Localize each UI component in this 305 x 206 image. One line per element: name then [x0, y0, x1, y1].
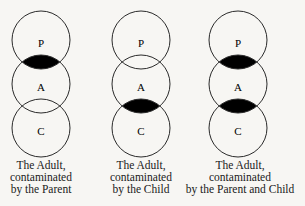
group-adult-contaminated-by-parent: P A C [12, 11, 70, 157]
caption-line: The Adult, [170, 159, 305, 171]
caption-line: by the Parent and Child [170, 183, 305, 195]
group-adult-contaminated-by-parent-and-child: P A C [209, 11, 267, 157]
label-adult: A [37, 81, 45, 93]
group-adult-contaminated-by-child: P A C [112, 11, 170, 157]
label-child: C [37, 125, 44, 137]
label-parent: P [235, 37, 241, 49]
caption-parent-and-child-contamination: The Adult, contaminated by the Parent an… [170, 159, 305, 195]
label-child: C [137, 125, 144, 137]
label-parent: P [38, 37, 44, 49]
label-child: C [234, 125, 241, 137]
label-adult: A [137, 81, 145, 93]
label-parent: P [138, 37, 144, 49]
label-adult: A [234, 81, 242, 93]
caption-line: contaminated [170, 171, 305, 183]
